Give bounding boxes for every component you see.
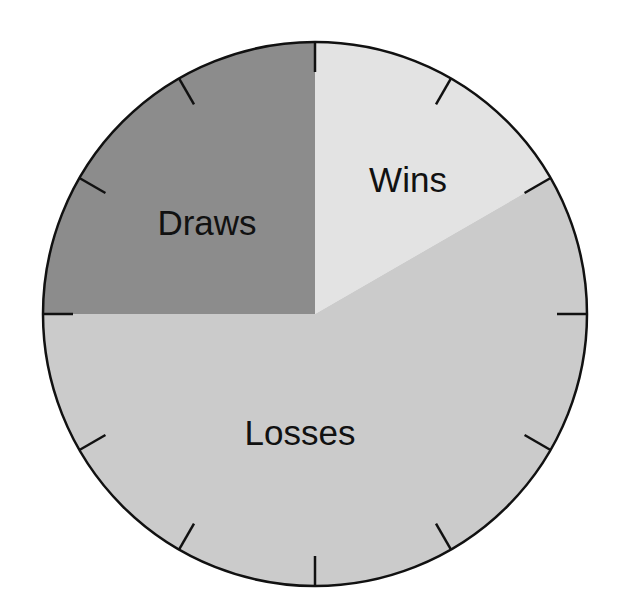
slice-label-losses: Losses xyxy=(245,413,356,452)
slice-label-draws: Draws xyxy=(157,203,256,242)
pie-slices xyxy=(43,42,587,586)
pie-slice-draws xyxy=(43,42,315,314)
pie-chart: Wins Draws Losses xyxy=(0,0,619,612)
slice-label-wins: Wins xyxy=(369,160,447,199)
